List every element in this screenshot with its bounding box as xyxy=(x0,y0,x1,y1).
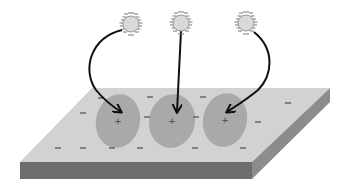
ion-2 xyxy=(170,12,193,34)
positive-charge-label: + xyxy=(221,115,229,125)
adsorption-sites: +++ xyxy=(91,89,252,152)
ion-sphere xyxy=(238,15,254,31)
ion-3 xyxy=(235,12,258,34)
slab-front-face xyxy=(20,162,252,179)
positive-charge-label: + xyxy=(114,116,122,126)
ions xyxy=(120,12,258,35)
positive-charge-label: + xyxy=(168,116,176,126)
ion-1 xyxy=(120,13,143,35)
ion-sphere xyxy=(173,15,189,31)
adsorption-diagram: +++ xyxy=(0,0,345,185)
ion-sphere xyxy=(123,16,139,32)
